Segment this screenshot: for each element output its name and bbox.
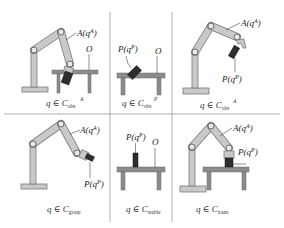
label-O: O — [152, 137, 159, 147]
object-P — [228, 45, 239, 58]
label-A: A(qA) — [232, 123, 253, 133]
table — [117, 73, 165, 95]
caption: q ∈ Cobs — [46, 98, 75, 109]
caption-sup: A — [79, 96, 84, 102]
label-P: P(qP) — [117, 44, 138, 54]
label-P: P(qP) — [237, 147, 258, 157]
caption-sup: P — [153, 96, 158, 102]
panel-obs-P: P(qP) O q ∈ Cobs P — [117, 44, 165, 109]
table — [203, 167, 249, 190]
label-O: O — [155, 46, 162, 56]
caption: q ∈ Cobs — [200, 100, 229, 111]
panel-obs-A-right: A(qA) P(qP) q ∈ Cobs A — [183, 18, 261, 111]
configuration-space-diagram: .arm{fill:#c9c9c9;stroke:#7a7a7a;stroke-… — [0, 0, 284, 228]
caption-sup: A — [232, 98, 237, 104]
object-P — [225, 158, 233, 167]
panel-obs-A-top: A(qA) O q ∈ Cobs A — [22, 28, 98, 109]
table — [117, 167, 165, 190]
label-A: A(qA) — [240, 18, 261, 28]
caption: q ∈ Cobs — [122, 98, 151, 109]
label-P: P(qP) — [125, 132, 146, 142]
label-O: O — [86, 44, 93, 54]
panel-trans: A(qA) P(qP) q ∈ Ctrans — [180, 123, 258, 215]
label-A: A(qA) — [79, 125, 100, 135]
label-A: A(qA) — [76, 28, 97, 38]
table — [52, 70, 98, 93]
robot-arm — [22, 29, 74, 92]
caption: q ∈ Cgrasp — [47, 204, 81, 215]
caption: q ∈ Cstable — [126, 204, 161, 215]
robot-arm — [183, 23, 246, 94]
panel-stable: P(qP) O q ∈ Cstable — [117, 132, 165, 215]
object-P — [85, 153, 94, 161]
panel-grasp: A(qA) P(qP) q ∈ Cgrasp — [21, 121, 104, 215]
object-P — [133, 153, 138, 167]
label-P: P(qP) — [221, 74, 242, 84]
label-P: P(qP) — [83, 179, 104, 189]
caption: q ∈ Ctrans — [196, 204, 228, 215]
